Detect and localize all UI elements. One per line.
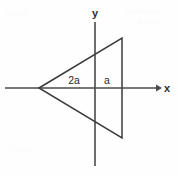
dimension-label-2a: 2a [68,74,80,86]
figure-container: scan artifact edge faint x y 2a a [0,0,178,176]
x-axis-label: x [164,82,171,94]
x-axis-arrowhead-icon [156,85,162,92]
dimension-label-a: a [104,74,110,86]
y-axis-label: y [92,7,99,19]
figure-svg: x y 2a a [0,0,178,176]
